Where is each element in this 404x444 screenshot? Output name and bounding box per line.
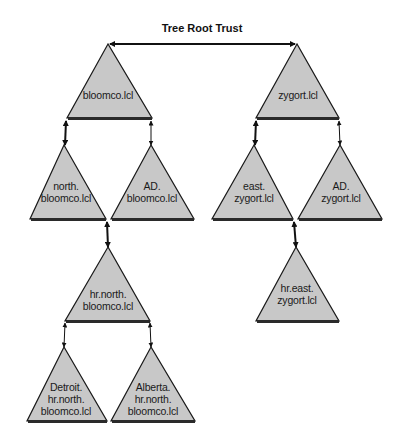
domain-label-line1: Alberta. [136, 381, 171, 393]
domain-label-line1: east. [243, 180, 265, 192]
trust-arrow-zygort-ad [339, 121, 340, 145]
trust-arrow-north-hrnorth [107, 222, 108, 247]
domain-label: zygort.lcl [278, 89, 317, 101]
trust-diagram: Tree Root Trust bloomco.lcl north. bloom… [0, 0, 404, 444]
domain-hr-east-zygort: hr.east. zygort.lcl [256, 247, 339, 323]
domain-label-line1: north. [53, 180, 79, 192]
tree-root-trust-label: Tree Root Trust [162, 22, 243, 34]
domain-zygort: zygort.lcl [256, 44, 339, 120]
domain-label-line3: bloomco.lcl [41, 405, 91, 417]
trust-arrow-bloomco-north [65, 121, 66, 145]
domain-bloomco: bloomco.lcl [67, 44, 152, 120]
domain-label-line2: bloomco.lcl [41, 192, 91, 204]
domain-ad-zygort: AD. zygort.lcl [298, 145, 382, 221]
domain-label-line1: AD. [333, 180, 350, 192]
domain-label-line2: zygort.lcl [234, 192, 273, 204]
domain-label-line2: hr.north. [48, 393, 85, 405]
domain-label-line1: hr.east. [281, 282, 314, 294]
trust-arrow-zygort-east [255, 121, 256, 145]
domain-detroit-hr-north-bloomco: Detroit. hr.north. bloomco.lcl [27, 347, 107, 423]
domain-label: bloomco.lcl [83, 89, 133, 101]
domain-label-line2: bloomco.lcl [127, 192, 177, 204]
domain-label-line2: zygort.lcl [321, 192, 360, 204]
domain-hr-north-bloomco: hr.north. bloomco.lcl [65, 247, 150, 323]
domain-label-line2: bloomco.lcl [83, 300, 133, 312]
domain-north-bloomco: north. bloomco.lcl [30, 145, 106, 221]
trust-arrow-hrnorth-detroit [64, 323, 65, 347]
domain-label-line2: zygort.lcl [277, 294, 316, 306]
domain-label-line3: bloomco.lcl [128, 405, 178, 417]
trust-arrow-east-hreast [294, 222, 296, 247]
domain-alberta-hr-north-bloomco: Alberta. hr.north. bloomco.lcl [111, 347, 195, 423]
domain-label-line2: hr.north. [135, 393, 172, 405]
domain-east-zygort: east. zygort.lcl [212, 145, 293, 221]
domain-ad-bloomco: AD. bloomco.lcl [111, 145, 194, 221]
domain-label-line1: Detroit. [50, 381, 82, 393]
trust-arrow-hrnorth-alberta [150, 323, 151, 347]
domain-label-line1: AD. [144, 180, 161, 192]
domain-label-line1: hr.north. [90, 288, 127, 300]
